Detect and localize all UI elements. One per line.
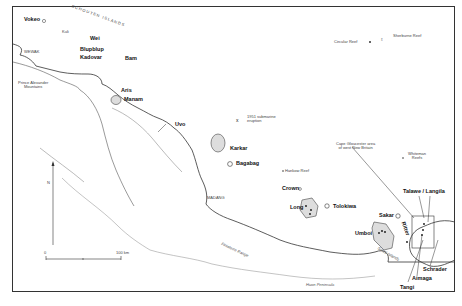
label-tangi: Tangi bbox=[400, 285, 414, 291]
label-bagabag: Bagabag bbox=[236, 161, 259, 167]
label-uvo: Uvo bbox=[175, 122, 185, 128]
label-wewak: WEWAK bbox=[24, 50, 39, 54]
label-north: N bbox=[47, 181, 50, 185]
label-aris: Aris bbox=[121, 88, 132, 94]
label-wei: Wei bbox=[90, 36, 100, 42]
label-kuli: Kuli bbox=[62, 30, 69, 34]
label-long: Long bbox=[290, 205, 303, 211]
map-canvas: x ♁ bbox=[0, 0, 462, 306]
label-bam: Bam bbox=[125, 56, 137, 62]
umboi-island bbox=[372, 222, 394, 250]
label-aimaga: Aimaga bbox=[412, 276, 432, 282]
label-umboi: Umboi bbox=[355, 231, 372, 237]
svg-text:x: x bbox=[236, 117, 239, 123]
label-whiteman-reefs: Whiteman Reefs bbox=[408, 152, 426, 160]
label-submarine-eruption: 1951 submarine eruption bbox=[247, 115, 276, 123]
label-circular-reef: Circular Reef bbox=[334, 40, 357, 44]
label-hankow-reef: Hankow Reef bbox=[285, 169, 309, 173]
label-schrader: Schrader bbox=[423, 267, 447, 273]
label-tolokiwa: Tolokiwa bbox=[333, 204, 356, 210]
label-sakar: Sakar bbox=[379, 213, 394, 219]
label-huon-peninsula: Huon Peninsula bbox=[306, 283, 334, 287]
label-vokeo: Vokeo bbox=[24, 17, 40, 23]
label-madang: MADANG bbox=[207, 196, 225, 200]
manam-island bbox=[111, 96, 121, 105]
svg-text:♁: ♁ bbox=[380, 36, 384, 42]
label-prince-alexander: Prince Alexander Mountains bbox=[18, 81, 48, 89]
label-kadovar: Kadovar bbox=[80, 55, 102, 61]
label-talawe-langila: Talawe / Langila bbox=[403, 189, 445, 195]
label-crown: Crown bbox=[282, 186, 299, 192]
label-scale-start: 0 bbox=[44, 251, 46, 255]
label-cape-gloucester: Cape Gloucester area of west New Britain bbox=[336, 142, 375, 150]
label-scale-end: 100 km bbox=[116, 251, 129, 255]
label-blupblup: Blupblup bbox=[80, 47, 104, 53]
label-karkar: Karkar bbox=[230, 146, 247, 152]
karkar-island bbox=[211, 134, 225, 152]
label-manam: Manam bbox=[124, 97, 143, 103]
label-sherburne-reef: Sherburne Reef bbox=[393, 34, 421, 38]
